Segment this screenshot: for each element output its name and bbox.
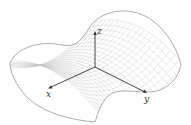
y-label: y bbox=[143, 94, 150, 104]
mesh-line bbox=[2, 62, 97, 112]
mesh-line bbox=[11, 64, 106, 114]
mesh-line bbox=[11, 21, 102, 66]
mesh-line bbox=[2, 22, 93, 67]
y-axis bbox=[95, 67, 145, 92]
x-label: x bbox=[46, 89, 51, 99]
mesh-line bbox=[41, 24, 132, 69]
mesh-line bbox=[33, 21, 124, 66]
mesh-line bbox=[76, 46, 167, 91]
mesh-line bbox=[97, 70, 188, 115]
z-label: z bbox=[96, 26, 102, 36]
axes: z x y bbox=[46, 26, 150, 104]
mesh-line bbox=[23, 65, 118, 115]
mesh-line bbox=[93, 64, 184, 109]
mesh-line bbox=[28, 21, 119, 66]
surface-outline bbox=[10, 11, 181, 122]
saddle-diagram: z x y bbox=[0, 0, 191, 125]
mesh-line bbox=[89, 59, 180, 104]
